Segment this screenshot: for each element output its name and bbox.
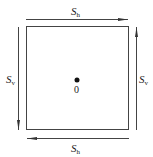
- center-point-icon: [75, 78, 80, 83]
- top-label: Sh: [71, 5, 81, 19]
- right-label: Sv: [139, 73, 149, 87]
- arrowhead-right-icon: [118, 18, 128, 21]
- right-shear-arrow: [135, 27, 138, 130]
- arrowhead-up-icon: [135, 27, 138, 37]
- shear-diagram: Sh Sh Sv Sv 0: [0, 0, 153, 157]
- arrowhead-down-icon: [17, 120, 20, 130]
- arrowhead-left-icon: [27, 137, 37, 140]
- left-label: Sv: [6, 73, 16, 87]
- bottom-shear-arrow: [27, 137, 129, 140]
- bottom-label: Sh: [71, 142, 81, 156]
- center-label: 0: [74, 84, 79, 95]
- left-shear-arrow: [17, 27, 20, 130]
